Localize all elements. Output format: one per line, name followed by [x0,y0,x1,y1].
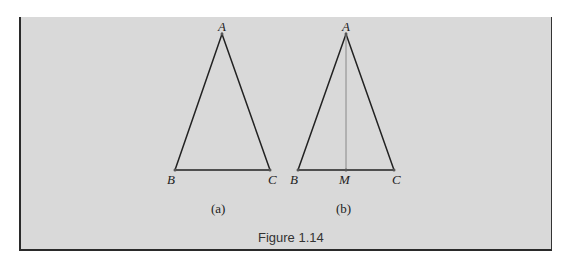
vertex-label-m: M [338,172,351,187]
vertex-label-c: C [392,172,401,187]
triangle-a: A B C (a) [167,19,277,216]
vertex-label-c: C [268,172,277,187]
figure-diagram: A B C (a) A B M C (b) Figure 1.14 [0,0,573,265]
figure-caption: Figure 1.14 [258,230,324,245]
panel-label-b: (b) [336,201,351,216]
triangle-b: A B M C (b) [290,19,401,216]
vertex-label-b: B [290,172,298,187]
vertex-label-b: B [167,172,175,187]
vertex-label-a: A [341,19,350,34]
panel-label-a: (a) [211,201,225,216]
vertex-label-a: A [217,19,226,34]
